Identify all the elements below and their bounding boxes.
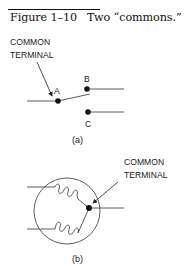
upper-winding-coil (55, 184, 89, 208)
callout-b-line1: COMMON (124, 157, 164, 167)
motor-diagram-b: COMMON TERMINAL (b) (27, 157, 168, 264)
terminal-a-label: A (54, 86, 60, 96)
callout-b-line2: TERMINAL (124, 170, 168, 180)
callout-a-line1: COMMON (10, 37, 50, 47)
callout-a-line2: TERMINAL (10, 50, 54, 60)
diagram-canvas: COMMON TERMINAL A B C (a) COMMON TERMINA… (0, 0, 187, 266)
motor-housing-circle (34, 178, 100, 244)
callout-arrow-a (37, 62, 52, 96)
terminal-a-dot (55, 98, 61, 104)
callout-arrow-b (93, 182, 118, 203)
switch-blade (58, 94, 90, 101)
sublabel-b: (b) (72, 254, 83, 264)
terminal-c-label: C (85, 119, 91, 129)
switch-diagram-a: COMMON TERMINAL A B C (a) (10, 37, 124, 145)
lower-winding-coil (55, 208, 89, 234)
terminal-b-label: B (84, 74, 90, 84)
sublabel-a: (a) (72, 135, 83, 145)
